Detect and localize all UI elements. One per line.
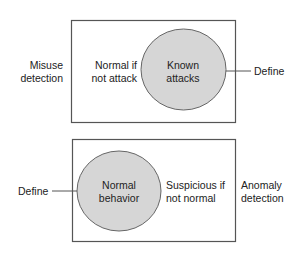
normal-behavior-line1: Normal xyxy=(89,179,149,192)
misuse-detection-label: Misuse detection xyxy=(20,59,63,85)
anomaly-label-line2: detection xyxy=(241,192,284,205)
normal-behavior-line2: behavior xyxy=(89,192,149,205)
normal-if-line2: not attack xyxy=(91,72,137,85)
known-attacks-label: Known attacks xyxy=(153,59,213,85)
normal-behavior-label: Normal behavior xyxy=(89,179,149,205)
misuse-define-text: Define xyxy=(254,65,284,78)
anomaly-define-text: Define xyxy=(18,185,48,198)
suspicious-if-not-normal-label: Suspicious if not normal xyxy=(166,179,225,205)
anomaly-detection-label: Anomaly detection xyxy=(241,179,284,205)
known-attacks-line2: attacks xyxy=(153,72,213,85)
misuse-label-line1: Misuse xyxy=(20,59,63,72)
misuse-label-line2: detection xyxy=(20,72,63,85)
suspicious-line2: not normal xyxy=(166,192,225,205)
misuse-define-label: Define xyxy=(254,65,284,78)
diagram-canvas xyxy=(0,0,298,253)
anomaly-define-label: Define xyxy=(18,185,48,198)
known-attacks-line1: Known xyxy=(153,59,213,72)
normal-if-not-attack-label: Normal if not attack xyxy=(91,59,137,85)
suspicious-line1: Suspicious if xyxy=(166,179,225,192)
anomaly-label-line1: Anomaly xyxy=(241,179,284,192)
normal-if-line1: Normal if xyxy=(91,59,137,72)
